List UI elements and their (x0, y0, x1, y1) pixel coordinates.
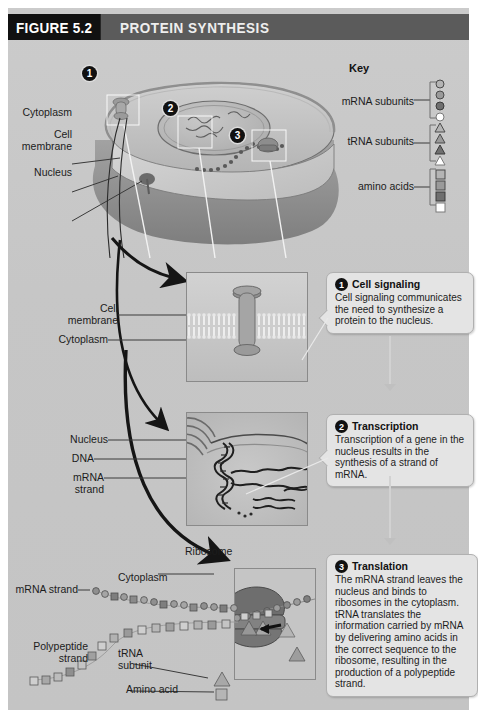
cell-marker-2: 2 (163, 101, 178, 116)
callout-2-text: Transcription of a gene in the nucleus r… (335, 434, 465, 480)
panel2-label-dna: DNA (32, 453, 94, 465)
callout-2-badge: 2 (335, 420, 348, 433)
mrna-strand-chain (93, 588, 238, 612)
key-circle-2 (436, 91, 444, 99)
panel1-label-cytoplasm: Cytoplasm (46, 334, 108, 346)
free-amino-acid (216, 689, 227, 700)
callout-3-text: The mRNA strand leaves the nucleus and b… (335, 574, 469, 690)
ribosome-small (258, 138, 278, 152)
cell-marker-3: 3 (230, 128, 245, 143)
callout-1-badge: 1 (335, 278, 348, 291)
key-title: Key (349, 62, 369, 74)
label-amino-acid: Amino acid (96, 684, 178, 696)
callout-1-title: Cell signaling (352, 278, 420, 290)
callout-step-3: 3 Translation The mRNA strand leaves the… (326, 554, 478, 697)
label-cytoplasm-cell: Cytoplasm (8, 107, 72, 119)
figure-header: FIGURE 5.2 PROTEIN SYNTHESIS (8, 14, 469, 40)
key-label-trna: tRNA subunits (330, 135, 414, 147)
free-trna (214, 672, 230, 686)
panel2-label-nucleus: Nucleus (46, 434, 108, 446)
callout-connector-1 (389, 336, 391, 384)
key-triangle-1 (435, 123, 445, 132)
key-square-1 (436, 170, 445, 179)
label-cytoplasm-bottom: Cytoplasm (118, 572, 188, 584)
label-polypeptide-strand: Polypeptide strand (16, 641, 88, 664)
callout-2-leader (240, 452, 330, 502)
label-mrna-strand-bottom: mRNA strand (10, 584, 78, 596)
key-triangle-3 (435, 145, 445, 154)
callout-3-header: 3 Translation (335, 560, 469, 573)
callout-1-text: Cell signaling communicates the need to … (335, 292, 465, 327)
label-cell-membrane-cell: Cell membrane (8, 129, 72, 152)
panel1-label-cell-membrane: Cell membrane (56, 303, 118, 326)
key-square-4 (436, 203, 445, 212)
key-triangle-4 (435, 156, 445, 165)
callout-3-badge: 3 (335, 560, 348, 573)
callout-2-header: 2 Transcription (335, 420, 465, 433)
cell-diagram (0, 48, 477, 258)
key-label-mrna: mRNA subunits (330, 95, 414, 107)
key-square-3 (436, 192, 445, 201)
figure-number: FIGURE 5.2 (8, 14, 100, 40)
arrow-to-panel-1 (112, 238, 174, 278)
panel2-label-mrna-strand: mRNA strand (42, 472, 104, 495)
key-circle-4 (436, 113, 444, 121)
callout-1-header: 1 Cell signaling (335, 278, 465, 291)
cell-marker-1: 1 (82, 66, 97, 81)
key-symbols (430, 79, 454, 205)
label-nucleus-cell: Nucleus (8, 167, 72, 179)
key-circle-3 (436, 102, 444, 110)
label-ribosome: Ribosome (185, 546, 265, 558)
callout-step-1: 1 Cell signaling Cell signaling communic… (326, 272, 474, 334)
callout-3-title: Translation (352, 560, 408, 572)
key-circle-1 (436, 80, 444, 88)
key-triangle-2 (435, 134, 445, 143)
callout-arrow-2 (384, 538, 396, 545)
page-title: PROTEIN SYNTHESIS (111, 14, 278, 40)
callout-arrow-1 (384, 384, 396, 391)
label-trna-subunit: tRNA subunit (118, 648, 178, 671)
panel-cell-signaling (186, 272, 308, 382)
key-square-2 (436, 181, 445, 190)
callout-connector-2 (389, 476, 391, 538)
callout-step-2: 2 Transcription Transcription of a gene … (326, 414, 474, 487)
callout-1-leader (300, 312, 330, 372)
key-label-amino: amino acids (330, 180, 414, 192)
callout-2-title: Transcription (352, 420, 419, 432)
